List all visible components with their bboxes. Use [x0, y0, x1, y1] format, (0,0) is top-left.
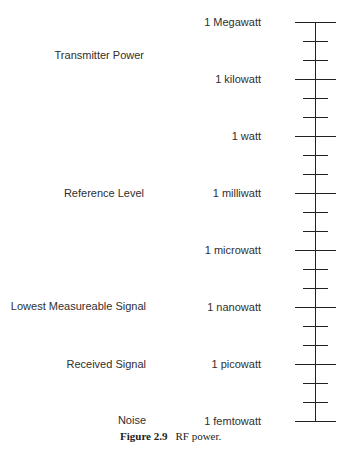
minor-tick: [303, 383, 328, 384]
category-label-transmitter-power: Transmitter Power: [55, 49, 144, 61]
major-tick: [295, 307, 336, 308]
minor-tick: [303, 41, 328, 42]
category-label-lowest-measureable-signal: Lowest Measureable Signal: [11, 300, 146, 312]
category-label-noise: Noise: [118, 414, 146, 426]
minor-tick: [303, 174, 328, 175]
minor-tick: [303, 212, 328, 213]
major-tick: [295, 136, 336, 137]
minor-tick: [303, 231, 328, 232]
major-tick: [295, 79, 336, 80]
major-tick: [295, 250, 336, 251]
scale-label-femtowatt: 1 femtowatt: [204, 415, 261, 427]
category-label-reference-level: Reference Level: [64, 187, 144, 199]
scale-label-kilowatt: 1 kilowatt: [215, 73, 261, 85]
scale-label-picowatt: 1 picowatt: [211, 358, 261, 370]
minor-tick: [303, 345, 328, 346]
scale-axis: [315, 22, 316, 422]
minor-tick: [303, 60, 328, 61]
minor-tick: [303, 288, 328, 289]
major-tick: [295, 421, 336, 422]
major-tick: [295, 364, 336, 365]
minor-tick: [303, 117, 328, 118]
caption-text: RF power.: [175, 430, 221, 442]
category-label-received-signal: Received Signal: [67, 358, 147, 370]
minor-tick: [303, 269, 328, 270]
minor-tick: [303, 326, 328, 327]
scale-label-milliwatt: 1 milliwatt: [213, 187, 261, 199]
scale-label-nanowatt: 1 nanowatt: [207, 301, 261, 313]
scale-label-microwatt: 1 microwatt: [205, 244, 261, 256]
minor-tick: [303, 402, 328, 403]
figure-number: Figure 2.9: [120, 430, 167, 442]
scale-label-watt: 1 watt: [232, 130, 261, 142]
minor-tick: [303, 155, 328, 156]
major-tick: [295, 193, 336, 194]
minor-tick: [303, 98, 328, 99]
figure-caption: Figure 2.9RF power.: [120, 430, 221, 442]
scale-label-megawatt: 1 Megawatt: [204, 16, 261, 28]
major-tick: [295, 22, 336, 23]
